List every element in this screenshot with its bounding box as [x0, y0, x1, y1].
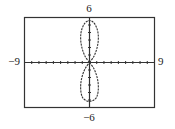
graph-window: 6 −6 −9 9 [0, 0, 175, 129]
y-max-label: 6 [86, 2, 92, 14]
x-min-label: −9 [8, 55, 20, 67]
y-min-label: −6 [83, 111, 95, 123]
x-max-label: 9 [158, 55, 164, 67]
